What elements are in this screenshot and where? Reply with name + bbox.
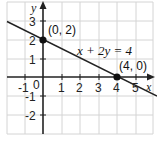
point-0-2 bbox=[39, 36, 46, 43]
svg-text:5: 5 bbox=[132, 81, 139, 95]
equation-label: x + 2y = 4 bbox=[76, 43, 133, 58]
svg-text:2: 2 bbox=[76, 81, 83, 95]
svg-text:1: 1 bbox=[29, 53, 36, 67]
svg-text:-2: -2 bbox=[25, 109, 36, 123]
line-graph: -1 0 1 2 3 4 5 3 2 1 -1 -2 y x (0, 2) (4… bbox=[0, 0, 157, 147]
svg-text:4: 4 bbox=[113, 81, 120, 95]
svg-text:1: 1 bbox=[58, 81, 65, 95]
point-4-0 bbox=[113, 73, 120, 80]
svg-text:3: 3 bbox=[95, 81, 102, 95]
svg-text:3: 3 bbox=[29, 15, 36, 29]
y-axis-label: y bbox=[30, 1, 37, 15]
point-label-0-2: (0, 2) bbox=[48, 23, 76, 37]
svg-text:-1: -1 bbox=[25, 90, 36, 104]
point-label-4-0: (4, 0) bbox=[119, 59, 147, 73]
